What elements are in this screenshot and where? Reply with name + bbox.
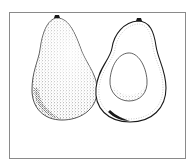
stem-icon <box>54 15 60 18</box>
whole-avocado <box>32 15 97 120</box>
halved-avocado <box>96 18 166 122</box>
avocado-illustration <box>0 0 195 162</box>
stem-icon <box>136 18 142 21</box>
